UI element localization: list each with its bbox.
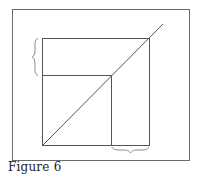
left-brace-icon [32,39,38,76]
bottom-brace-icon [112,147,149,153]
figure-diagram [0,0,200,175]
figure-caption: Figure 6 [8,160,61,174]
outer-frame [13,10,190,161]
diagonal-line [43,24,164,146]
